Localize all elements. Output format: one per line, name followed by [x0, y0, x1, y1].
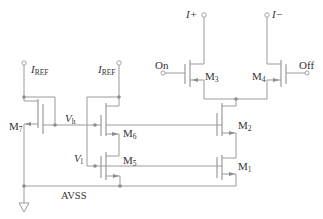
- m4-arrow-icon: [273, 78, 279, 82]
- off-label: Off: [299, 60, 314, 71]
- vl-label: Vl: [74, 153, 83, 166]
- m6-arrow-icon: [112, 132, 118, 136]
- m7-label: M7: [9, 121, 23, 134]
- on-terminal: [161, 71, 165, 75]
- m5-label: M5: [123, 155, 137, 168]
- m1-label: M1: [238, 161, 252, 174]
- avss-label: AVSS: [61, 191, 87, 202]
- iref-right-label: IREF: [98, 64, 115, 77]
- m1-transistor: [217, 155, 236, 186]
- m6-transistor: [95, 103, 119, 156]
- iref-left-terminal: [22, 61, 26, 65]
- iref-left-label: IREF: [31, 64, 48, 77]
- m3-label: M3: [205, 71, 219, 84]
- vh-label: Vh: [65, 113, 75, 126]
- on-label: On: [155, 60, 168, 71]
- m4-transistor: [265, 13, 309, 99]
- m5-transistor: [95, 152, 120, 186]
- m7-transistor: [24, 99, 95, 186]
- i-plus-terminal: [202, 13, 206, 17]
- m1-arrow-icon: [229, 172, 235, 176]
- iref-right-terminal: [117, 61, 121, 65]
- off-terminal: [305, 71, 309, 75]
- i-minus-label: I−: [272, 9, 283, 20]
- m2-label: M2: [238, 120, 252, 133]
- m2-transistor: [217, 103, 236, 158]
- circuit-diagram: IREF IREF I+ I− On Off M3 M4 M7 Vh M6 Vl…: [0, 0, 323, 219]
- i-plus-label: I+: [186, 9, 197, 20]
- m7-arrow-icon: [25, 122, 31, 126]
- m5-arrow-icon: [113, 174, 119, 178]
- m2-arrow-icon: [229, 131, 235, 135]
- m4-label: M4: [252, 71, 266, 84]
- schematic-wires: [0, 0, 323, 219]
- i-minus-terminal: [265, 13, 269, 17]
- m3-arrow-icon: [192, 78, 198, 82]
- m6-label: M6: [123, 128, 137, 141]
- ground-icon: [19, 186, 29, 212]
- m3-transistor: [161, 13, 206, 99]
